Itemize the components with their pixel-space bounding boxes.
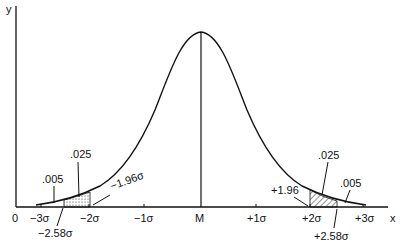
y-axis-label: y (6, 3, 12, 15)
tick-label-plus-1sigma: +1σ (247, 212, 267, 224)
arrow-left-196 (93, 195, 110, 205)
annotation-left-025: .025 (70, 148, 91, 160)
diagram-canvas: y x 0 −3σ −2σ −1σ M +1σ +2σ +3σ .005 .02… (0, 0, 402, 247)
annotation-right-196: +1.96 (271, 184, 299, 196)
arrow-right-196 (294, 197, 308, 206)
annotation-left-258: −2.58σ (38, 227, 73, 239)
tick-label-plus-3sigma: +3σ (355, 212, 375, 224)
arrow-left-258 (57, 208, 63, 226)
arrow-right-005 (345, 190, 350, 203)
arrow-right-025 (322, 162, 328, 195)
annotation-right-005: .005 (340, 177, 361, 189)
x-axis-label: x (390, 212, 396, 224)
tick-label-mean: M (195, 212, 204, 224)
annotation-right-258: +2.58σ (314, 230, 349, 242)
origin-label: 0 (12, 212, 18, 224)
tick-label-minus-3sigma: −3σ (30, 212, 50, 224)
normal-distribution-diagram: y x 0 −3σ −2σ −1σ M +1σ +2σ +3σ .005 .02… (0, 0, 402, 247)
annotation-left-196: −1.96σ (109, 169, 146, 192)
arrow-left-025 (78, 162, 79, 197)
tick-label-minus-1sigma: −1σ (134, 212, 154, 224)
annotation-right-025: .025 (318, 149, 339, 161)
tick-label-plus-2sigma: +2σ (302, 212, 322, 224)
annotation-left-005: .005 (42, 173, 63, 185)
left-shaded-region (64, 192, 90, 207)
tick-label-minus-2sigma: −2σ (80, 212, 100, 224)
arrow-right-258 (334, 209, 337, 228)
